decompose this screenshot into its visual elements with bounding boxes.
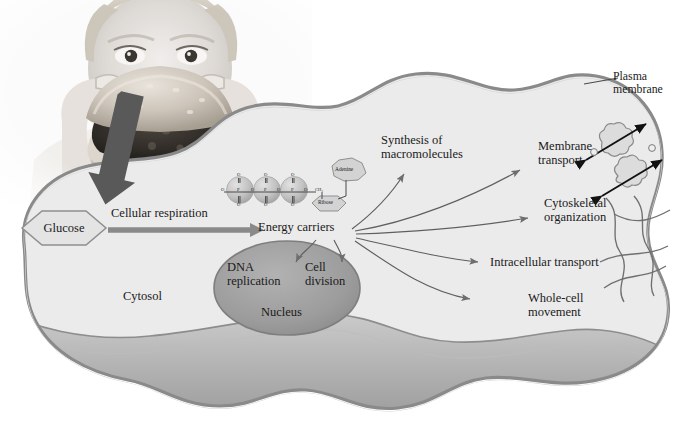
label-energy-carriers: Energy carriers	[258, 220, 334, 234]
atom-label-CH2: CH₂	[315, 187, 323, 192]
nucleus	[214, 241, 360, 335]
label-cell-division: Cell division	[305, 260, 345, 288]
atom-label-O: O	[221, 187, 224, 192]
atom-label-O-top: O	[264, 172, 267, 177]
atom-label-P: P	[264, 187, 267, 192]
atom-label-P: P	[237, 187, 240, 192]
atom-label-O-bottom: O	[237, 202, 240, 207]
figure-canvas: Plasma membrane Glucose Cellular respira…	[0, 0, 694, 426]
atom-label-O-top: O	[237, 172, 240, 177]
atom-label-O-bottom: O	[291, 202, 294, 207]
label-glucose: Glucose	[22, 221, 106, 235]
label-plasma-membrane: Plasma membrane	[613, 70, 663, 96]
label-ribose: Ribose	[318, 199, 333, 205]
label-whole-cell-movement: Whole-cell movement	[528, 291, 584, 319]
atom-label-O-bottom: O	[264, 202, 267, 207]
label-nucleus: Nucleus	[261, 305, 302, 319]
label-cytosol: Cytosol	[123, 289, 162, 303]
label-cellular-respiration: Cellular respiration	[111, 206, 208, 220]
atom-label-O: O	[251, 187, 254, 192]
transported-molecule	[649, 145, 656, 152]
label-synthesis-of-macromolecules: Synthesis of macromolecules	[381, 133, 463, 161]
label-dna-replication: DNA replication	[227, 260, 280, 288]
atom-label-O: O	[277, 187, 280, 192]
atom-label-O: O	[304, 187, 307, 192]
label-cytoskeletal-organization: Cytoskeletal organization	[544, 196, 607, 224]
label-intracellular-transport: Intracellular transport	[490, 255, 599, 269]
label-membrane-transport: Membrane transport	[538, 139, 592, 167]
label-adenine: Adenine	[335, 166, 353, 172]
atom-label-P: P	[291, 187, 294, 192]
atom-label-O-top: O	[291, 172, 294, 177]
